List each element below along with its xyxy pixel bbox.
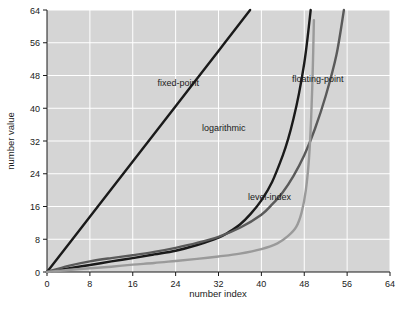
series-label-fixed-point: fixed-point — [158, 78, 200, 88]
x-tick-label: 0 — [44, 279, 49, 289]
x-tick-label: 8 — [87, 279, 92, 289]
y-tick-label: 48 — [30, 71, 40, 81]
y-tick-label: 8 — [35, 235, 40, 245]
x-tick-label: 24 — [171, 279, 181, 289]
y-tick-label: 32 — [30, 137, 40, 147]
series-label-level-index: level-index — [248, 192, 292, 202]
x-tick-label: 64 — [385, 279, 395, 289]
y-tick-label: 0 — [35, 268, 40, 278]
series-label-floating-point: floating-point — [292, 74, 344, 84]
series-label-logarithmic: logarithmic — [202, 123, 246, 133]
x-tick-label: 48 — [299, 279, 309, 289]
x-tick-label: 40 — [256, 279, 266, 289]
chart-container: 08162432404856640816243240485664 fixed-p… — [0, 0, 401, 309]
y-tick-label: 56 — [30, 38, 40, 48]
x-tick-label: 56 — [342, 279, 352, 289]
y-tick-label: 40 — [30, 104, 40, 114]
x-tick-label: 16 — [128, 279, 138, 289]
y-tick-label: 16 — [30, 202, 40, 212]
y-tick-label: 24 — [30, 169, 40, 179]
line-chart: 08162432404856640816243240485664 fixed-p… — [0, 0, 401, 309]
x-axis-title: number index — [189, 288, 247, 299]
y-axis-title: number value — [5, 112, 16, 170]
y-tick-label: 64 — [30, 6, 40, 16]
